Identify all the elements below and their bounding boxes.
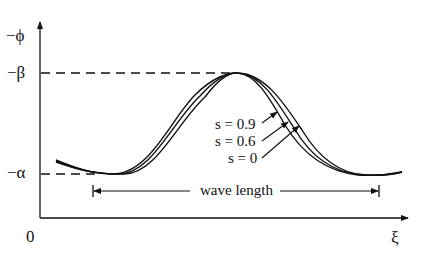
curve-label-s-0-6: s = 0.6 (215, 134, 256, 149)
leader-s-0-6 (262, 122, 288, 141)
diagram-canvas (0, 0, 424, 256)
leader-s-0 (262, 126, 299, 158)
alpha-level-label: −α (7, 164, 26, 181)
x-axis-label: ξ (391, 229, 399, 246)
beta-level-label: −β (7, 64, 25, 81)
curve-label-s-0: s = 0 (228, 151, 257, 166)
origin-label: 0 (26, 228, 35, 245)
y-axis-label: −ϕ (6, 27, 25, 44)
curve-label-s-0-9: s = 0.9 (215, 117, 256, 132)
leader-s-0-9 (262, 112, 277, 123)
wavelength-label: wave length (195, 183, 278, 198)
wave-profile-diagram: −ϕ −β −α 0 ξ s = 0.9 s = 0.6 s = 0 wave … (0, 0, 424, 256)
